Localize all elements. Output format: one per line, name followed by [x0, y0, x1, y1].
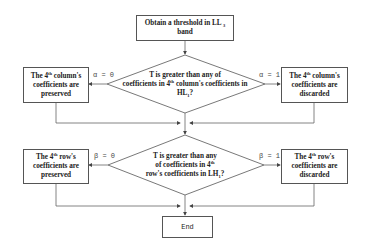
- decision1-line1: T is greater than any of: [149, 71, 221, 79]
- end-text: End: [181, 223, 194, 232]
- row-preserved-line2: coefficients are: [33, 162, 79, 170]
- col-discarded-pre: The 4: [289, 72, 306, 80]
- start-text-line2: band: [177, 28, 193, 36]
- column-discarded-box: The 4th column's coefficients are discar…: [281, 67, 348, 103]
- col-preserved-post: column's: [52, 72, 81, 80]
- row-discarded-post: row's: [316, 153, 334, 161]
- start-subscript: 3: [223, 23, 225, 28]
- decision2-text: T is greater than any of coefficients in…: [130, 149, 240, 181]
- row-discarded-pre: The 4: [295, 153, 312, 161]
- col-discarded-line2: coefficients are: [292, 81, 338, 89]
- col-discarded-post: column's: [311, 72, 340, 80]
- row-discarded-line3: discarded: [300, 171, 330, 179]
- row-preserved-line3: preserved: [41, 171, 71, 179]
- merge-left-1: [56, 103, 180, 123]
- alpha1-label: α = 1: [259, 71, 280, 79]
- decision1-text: T is greater than any of coefficients in…: [112, 68, 258, 100]
- decision2-line1: T is greater than any: [153, 152, 217, 160]
- decision1-line2b: column's coefficients in: [174, 80, 247, 88]
- column-preserved-box: The 4th column's coefficients are preser…: [23, 67, 89, 103]
- beta1-label: β = 1: [259, 152, 280, 160]
- decision1-line2a: coefficients in 4: [123, 80, 171, 88]
- merge-right-1: [190, 103, 314, 123]
- row-preserved-pre: The 4: [36, 153, 53, 161]
- row-preserved-post: row's: [57, 153, 75, 161]
- start-text: Obtain a threshold in LL: [145, 19, 222, 27]
- decision1-line3a: HL: [177, 89, 187, 97]
- col-preserved-line3: preserved: [41, 90, 71, 98]
- decision2-line2a: of coefficients in 4: [155, 161, 210, 169]
- beta0-label: β = 0: [94, 152, 115, 160]
- row-discarded-line2: coefficients are: [292, 162, 338, 170]
- end-box: End: [162, 216, 213, 238]
- row-preserved-box: The 4th row's coefficients are preserved: [23, 149, 89, 184]
- row-discarded-box: The 4th row's coefficients are discarded: [281, 149, 348, 184]
- merge-left-2: [56, 184, 180, 206]
- decision2-line3a: row's coefficients in LH: [146, 170, 219, 178]
- col-preserved-line2: coefficients are: [33, 81, 79, 89]
- alpha0-label: α = 0: [93, 71, 114, 79]
- col-discarded-line3: discarded: [300, 90, 330, 98]
- decision2-line3b: ?: [221, 170, 225, 178]
- merge-right-2: [190, 184, 314, 206]
- decision2-sup: th: [211, 159, 215, 164]
- decision1-line3b: ?: [190, 89, 194, 97]
- col-preserved-pre: The 4: [31, 72, 48, 80]
- start-box: Obtain a threshold in LL 3 band: [136, 15, 234, 41]
